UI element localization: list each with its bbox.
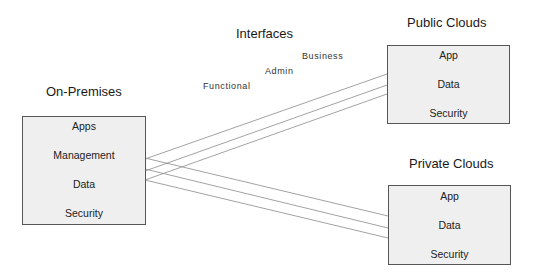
connector-onprem-private-2	[145, 169, 388, 228]
on-premises-item-data: Data	[23, 178, 145, 190]
public-clouds-title: Public Clouds	[407, 15, 487, 30]
public-clouds-item-data: Data	[388, 78, 509, 90]
connector-onprem-private-1	[145, 158, 388, 216]
connector-onprem-public-2	[145, 85, 387, 171]
on-premises-box: Apps Management Data Security	[22, 116, 146, 225]
interfaces-title: Interfaces	[236, 26, 293, 41]
interface-admin-label: Admin	[265, 66, 294, 76]
private-clouds-item-security: Security	[389, 248, 510, 260]
public-clouds-item-security: Security	[388, 107, 509, 119]
connector-onprem-private-3	[145, 180, 388, 238]
connector-onprem-public-1	[145, 74, 387, 159]
connector-onprem-public-3	[145, 94, 387, 180]
on-premises-item-management: Management	[23, 149, 145, 161]
on-premises-item-apps: Apps	[23, 120, 145, 132]
private-clouds-title: Private Clouds	[409, 156, 494, 171]
private-clouds-item-data: Data	[389, 219, 510, 231]
interface-functional-label: Functional	[203, 81, 251, 91]
public-clouds-item-app: App	[388, 49, 509, 61]
on-premises-title: On-Premises	[46, 84, 122, 99]
interface-business-label: Business	[302, 51, 343, 61]
public-clouds-box: App Data Security	[387, 45, 510, 124]
private-clouds-item-app: App	[389, 190, 510, 202]
private-clouds-box: App Data Security	[388, 185, 511, 265]
on-premises-item-security: Security	[23, 207, 145, 219]
